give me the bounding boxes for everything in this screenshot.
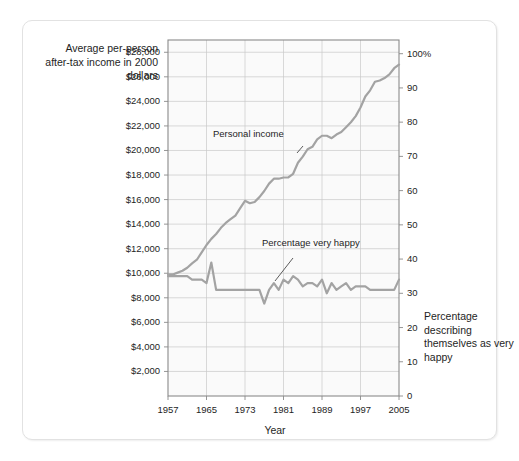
- y-axis-left-tick-label: $20,000: [104, 144, 160, 155]
- y-axis-left-tick-label: $16,000: [104, 194, 160, 205]
- x-axis-tick-label: 1965: [187, 404, 227, 415]
- series-annotation-percentage-very-happy: Percentage very happy: [262, 237, 360, 248]
- y-axis-right-tick-label: 20: [407, 322, 447, 333]
- y-axis-right-tick-label: 70: [407, 150, 447, 161]
- y-axis-left-tick-label: $6,000: [104, 316, 160, 327]
- y-axis-left-tick-label: $22,000: [104, 120, 160, 131]
- y-axis-right-tick-label: 40: [407, 253, 447, 264]
- y-axis-left-tick-label: $26,000: [104, 71, 160, 82]
- x-axis-tick-label: 2005: [379, 404, 419, 415]
- x-axis-tick-label: 1957: [148, 404, 188, 415]
- y-axis-right-tick-label: 50: [407, 219, 447, 230]
- y-axis-left-tick-label: $2,000: [104, 365, 160, 376]
- y-axis-right-tick-label: 80: [407, 116, 447, 127]
- y-axis-left-tick-label: $12,000: [104, 243, 160, 254]
- y-axis-left-tick-label: $24,000: [104, 95, 160, 106]
- y-axis-right-tick-label: 30: [407, 287, 447, 298]
- y-axis-left-tick-label: $10,000: [104, 267, 160, 278]
- y-axis-left-tick-label: $28,000: [104, 46, 160, 57]
- y-axis-right-tick-label: 100%: [407, 48, 447, 59]
- chart-figure: Average per-person after-tax income in 2…: [0, 0, 519, 461]
- y-axis-right-tick-label: 90: [407, 82, 447, 93]
- y-axis-left-tick-label: $8,000: [104, 292, 160, 303]
- y-axis-left-tick-label: $4,000: [104, 341, 160, 352]
- y-axis-left-tick-label: $18,000: [104, 169, 160, 180]
- x-axis-tick-label: 1981: [264, 404, 304, 415]
- y-axis-left-tick-label: $14,000: [104, 218, 160, 229]
- series-annotation-personal-income: Personal income: [213, 128, 284, 139]
- y-axis-right-tick-label: 0: [407, 390, 447, 401]
- x-axis-tick-label: 1973: [225, 404, 265, 415]
- x-axis-title: Year: [245, 424, 305, 438]
- y-axis-right-tick-label: 60: [407, 185, 447, 196]
- y-axis-right-tick-label: 10: [407, 356, 447, 367]
- x-axis-tick-label: 1989: [302, 404, 342, 415]
- x-axis-tick-label: 1997: [341, 404, 381, 415]
